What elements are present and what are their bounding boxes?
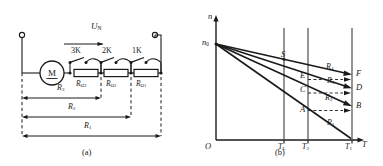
motor-label: M [48,68,56,78]
curve-label-r3: R3 [327,77,334,86]
chart-y-axis-arrow [213,15,218,22]
dim-r1-head-right [156,134,162,138]
switch-1k-blade [131,58,144,63]
switch-1k-contact [145,61,148,64]
terminal-left [19,32,24,37]
dim-line-r1 [22,134,161,138]
switch-2k-contact [115,61,118,64]
chart-start-speed-label: n0 [202,38,209,47]
panel-b-chart [213,15,364,144]
chart-y-axis-label: n [208,12,212,21]
point-c-label: C [300,85,306,94]
panel-a-caption: (a) [82,148,91,157]
switch-3k-blade [70,58,84,63]
point-e-label: E [300,71,305,80]
dim-r1-head-left [22,134,28,138]
dim-line-r2 [22,115,131,119]
switch-3k-contact [85,61,88,64]
resistor-omega3-body [74,69,98,76]
resistor-omega2-label: RΩ2 [106,80,116,89]
switch-3k-arc [86,59,101,63]
curve-label-r1: R1 [327,119,334,128]
point-f-label: F [356,69,361,78]
chart-transfer-C-D-arrow [344,91,351,96]
chart-tick-label-T2: T2 [302,143,309,152]
chart-curve-r4-arrow [343,70,352,76]
point-d-label: D [356,83,362,92]
curve-label-r2: R2 [325,94,332,103]
dim-r3-head-right [96,96,102,100]
dim-r3-head-left [22,96,28,100]
resistor-omega2-body [104,69,128,76]
chart-x-axis-label: T [362,140,367,149]
chart-origin-label: O [205,142,211,151]
resistor-omega1-body [134,69,158,76]
dim-r2-label: R2 [68,103,75,112]
curve-label-r4: R4 [326,63,333,72]
dim-line-r3 [22,96,101,100]
switch-1k-label: 1K [132,47,142,55]
resistor-omega3-label: RΩ3 [76,80,86,89]
point-s-label: S [281,50,285,59]
chart-tick-label-T1: T1 [345,143,352,152]
switch-3k-label: 3K [71,47,81,55]
switch-2k-label: 2K [102,47,112,55]
voltage-label: UN [91,22,102,32]
dim-r2-head-right [126,115,132,119]
dim-r3-label: R3 [57,84,64,93]
switch-2k-arc [116,59,131,63]
resistor-omega1-label: RΩ1 [136,80,146,89]
chart-curve-r2-arrow [343,100,352,106]
dim-r1-label: R1 [84,122,91,131]
chart-curve-r3-arrow [343,83,352,88]
chart-transfer-E-F-arrow [344,77,351,82]
switch-2k-blade [101,58,114,63]
panel-b-caption: (b) [275,148,285,157]
dim-r2-head-left [22,115,28,119]
switch-1k-arc [146,59,161,63]
point-a-label: A [300,105,305,114]
point-b-label: B [356,101,361,110]
voltage-arrow [64,42,103,46]
chart-transfer-A-B-arrow [344,108,351,113]
